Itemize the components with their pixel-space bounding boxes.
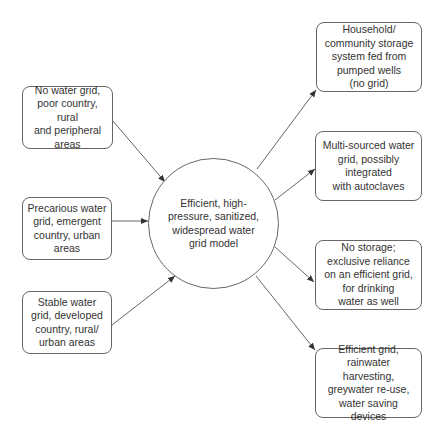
arrow-output-2 xyxy=(275,169,315,200)
output-box-multi-sourced-grid: Multi-sourced water grid, possibly integ… xyxy=(315,131,422,201)
arrow-output-4 xyxy=(256,276,315,350)
input-box-no-water-grid: No water grid, poor country, rural and p… xyxy=(22,86,113,149)
arrow-output-3 xyxy=(275,247,314,282)
arrow-output-1 xyxy=(257,90,316,169)
center-node-grid-model: Efficient, high- pressure, sanitized, wi… xyxy=(148,158,279,289)
output-box-no-storage: No storage; exclusive reliance on an eff… xyxy=(315,240,422,310)
output-box-efficient-grid-harvesting: Efficient grid, rainwater harvesting, gr… xyxy=(315,348,422,418)
input-box-precarious-grid: Precarious water grid, emergent country,… xyxy=(22,197,112,260)
output-box-household-storage: Household/ community storage system fed … xyxy=(316,22,422,92)
arrow-input-1 xyxy=(113,121,165,182)
arrow-input-3 xyxy=(112,276,175,325)
input-box-stable-grid: Stable water grid, developed country, ru… xyxy=(22,291,112,354)
